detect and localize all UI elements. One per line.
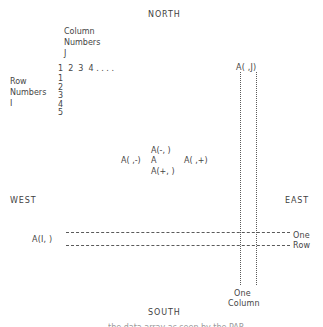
row-band-bottom-line xyxy=(66,245,290,246)
one-row-label-line2: Row xyxy=(293,241,310,250)
clipped-caption: the data array as seen by the PAR xyxy=(108,323,244,327)
column-numbers-label-line1: Column xyxy=(64,27,95,37)
neighbor-down-label: A(+, ) xyxy=(151,167,175,177)
row-numbers-label-line3: I xyxy=(10,99,12,109)
compass-label-east: EAST xyxy=(285,196,309,205)
diagram-canvas: NORTH SOUTH WEST EAST Column Numbers J 1… xyxy=(0,0,323,327)
neighbor-center-label: A xyxy=(151,156,156,166)
column-numbers-label-line2: Numbers xyxy=(64,38,100,48)
row-reference-label: A(I, ) xyxy=(32,235,52,244)
row-numbers-label-line1: Row xyxy=(10,77,27,87)
row-band-top-line xyxy=(66,232,290,233)
one-column-label-line2: Column xyxy=(228,299,260,308)
compass-label-north: NORTH xyxy=(148,10,181,19)
compass-label-south: SOUTH xyxy=(148,308,181,317)
one-column-label-line1: One xyxy=(234,289,251,298)
neighbor-left-label: A( ,-) xyxy=(121,156,141,166)
column-band-right-line xyxy=(256,72,257,285)
row-numbers-values: 1 2 3 4 5 xyxy=(58,75,63,118)
column-numbers-values: 1 2 3 4 . . . . xyxy=(58,64,114,73)
column-reference-label: A( ,J) xyxy=(236,63,256,72)
column-band-left-line xyxy=(240,72,241,285)
column-numbers-label-line3: J xyxy=(64,49,66,59)
neighbor-right-label: A( ,+) xyxy=(184,156,208,166)
neighbor-up-label: A(-, ) xyxy=(151,146,171,156)
one-row-label-line1: One xyxy=(293,231,310,240)
row-numbers-label-line2: Numbers xyxy=(10,88,46,98)
compass-label-west: WEST xyxy=(10,196,37,205)
